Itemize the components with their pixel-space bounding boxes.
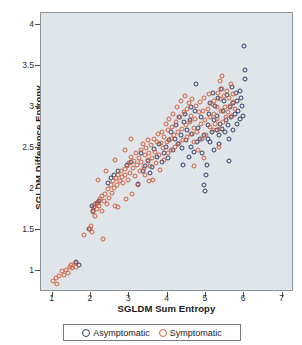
- data-point: [88, 224, 93, 229]
- data-point: [205, 107, 210, 112]
- data-point: [204, 162, 209, 167]
- data-point: [193, 116, 198, 121]
- data-point: [226, 123, 231, 128]
- data-point: [192, 139, 197, 144]
- data-point: [126, 177, 131, 182]
- data-point: [201, 156, 206, 161]
- data-point: [171, 111, 176, 116]
- data-point: [228, 82, 233, 87]
- data-point: [107, 195, 112, 200]
- data-point: [223, 129, 228, 134]
- data-point: [186, 101, 191, 106]
- data-point: [241, 113, 246, 118]
- data-point: [143, 172, 148, 177]
- data-point: [74, 264, 79, 269]
- data-point: [224, 88, 229, 93]
- data-point: [139, 159, 144, 164]
- legend-item-symptomatic: Symptomatic: [159, 328, 222, 338]
- data-points-layer: [41, 13, 292, 290]
- data-point: [185, 107, 190, 112]
- data-point: [226, 158, 231, 163]
- data-point: [178, 98, 183, 103]
- data-point: [81, 232, 86, 237]
- data-point: [170, 125, 175, 130]
- y-tick-label: 1: [6, 266, 34, 275]
- data-point: [109, 190, 114, 195]
- data-point: [229, 113, 234, 118]
- data-point: [232, 107, 237, 112]
- data-point: [95, 177, 100, 182]
- data-point: [234, 121, 239, 126]
- data-point: [219, 74, 224, 79]
- data-point: [242, 43, 247, 48]
- data-point: [206, 92, 211, 97]
- data-point: [201, 183, 206, 188]
- data-point: [201, 95, 206, 100]
- data-point: [101, 236, 106, 241]
- data-point: [188, 131, 193, 136]
- data-point: [217, 133, 222, 138]
- data-point: [161, 157, 166, 162]
- scatter-plot-figure: SGLDM Difference Entropy 43.532.521.51 1…: [0, 0, 302, 345]
- data-point: [180, 162, 185, 167]
- x-tick-label: 4: [155, 294, 179, 303]
- data-point: [65, 271, 70, 276]
- data-point: [130, 191, 135, 196]
- data-point: [203, 118, 208, 123]
- data-point: [112, 157, 117, 162]
- data-point: [242, 76, 247, 81]
- data-point: [160, 146, 165, 151]
- y-tick-label: 1.5: [6, 225, 34, 234]
- data-point: [157, 152, 162, 157]
- circle-marker-icon: [82, 329, 90, 337]
- data-point: [149, 143, 154, 148]
- legend-label-asymptomatic: Asymptomatic: [93, 328, 150, 338]
- data-point: [191, 164, 196, 169]
- x-tick-label: 2: [78, 294, 102, 303]
- data-point: [104, 202, 109, 207]
- legend-label-symptomatic: Symptomatic: [170, 328, 222, 338]
- data-point: [163, 121, 168, 126]
- data-point: [217, 144, 222, 149]
- data-point: [132, 174, 137, 179]
- data-point: [203, 133, 208, 138]
- data-point: [231, 100, 236, 105]
- data-point: [141, 166, 146, 171]
- data-point: [221, 120, 226, 125]
- data-point: [135, 183, 140, 188]
- data-point: [148, 164, 153, 169]
- data-point: [218, 79, 223, 84]
- data-point: [212, 98, 217, 103]
- data-point: [195, 129, 200, 134]
- x-tick-label: 1: [40, 294, 64, 303]
- data-point: [182, 93, 187, 98]
- plot-area: [40, 12, 293, 291]
- data-point: [215, 116, 220, 121]
- y-tick-label: 2: [6, 184, 34, 193]
- data-point: [99, 208, 104, 213]
- data-point: [190, 97, 195, 102]
- data-point: [55, 281, 60, 286]
- data-point: [194, 82, 199, 87]
- data-point: [240, 103, 245, 108]
- data-point: [129, 136, 134, 141]
- chart-legend: Asymptomatic Symptomatic: [63, 324, 241, 341]
- data-point: [93, 213, 98, 218]
- data-point: [148, 171, 153, 176]
- data-point: [124, 197, 129, 202]
- data-point: [157, 167, 162, 172]
- x-tick-label: 6: [231, 294, 255, 303]
- data-point: [198, 100, 203, 105]
- x-axis-title: SGLDM Sum Entropy: [40, 303, 293, 314]
- data-point: [203, 172, 208, 177]
- data-point: [177, 115, 182, 120]
- data-point: [217, 126, 222, 131]
- data-point: [187, 120, 192, 125]
- data-point: [89, 230, 94, 235]
- y-tick-label: 3: [6, 102, 34, 111]
- circle-marker-icon: [159, 329, 167, 337]
- data-point: [121, 180, 126, 185]
- x-tick-label: 3: [116, 294, 140, 303]
- x-tick-label: 5: [193, 294, 217, 303]
- data-point: [196, 148, 201, 153]
